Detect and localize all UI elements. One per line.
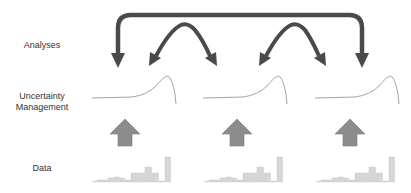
histogram-bar xyxy=(264,173,271,182)
arc-feedback-arrow-2 xyxy=(259,24,326,66)
histogram-bar xyxy=(317,181,321,182)
histogram-bar xyxy=(145,167,152,182)
histogram-bar xyxy=(344,178,349,182)
histogram-bar xyxy=(389,157,395,182)
data-histogram-1 xyxy=(93,157,171,182)
histogram-bar xyxy=(159,181,165,182)
histogram-bar xyxy=(332,178,338,182)
histogram-bar xyxy=(220,178,226,182)
up-arrow-1 xyxy=(110,119,140,146)
histogram-bar xyxy=(243,173,250,182)
histogram-bar xyxy=(152,173,159,182)
histogram-bar xyxy=(93,181,97,182)
histogram-bar xyxy=(165,157,171,182)
histogram-bar xyxy=(271,181,277,182)
histogram-bar xyxy=(209,180,214,182)
histogram-bar xyxy=(232,178,237,182)
histogram-bar xyxy=(138,173,145,182)
histogram-bar xyxy=(226,177,232,182)
histogram-bar xyxy=(102,180,108,182)
histogram-bar xyxy=(114,177,120,182)
arrowhead-icon xyxy=(111,53,125,68)
histogram-bar xyxy=(214,180,220,182)
histogram-bar xyxy=(349,180,355,182)
histogram-bar xyxy=(97,180,102,182)
arrowhead-icon xyxy=(355,53,369,68)
histogram-bar xyxy=(338,177,344,182)
uncertainty-curve-2 xyxy=(203,76,287,104)
workflow-diagram xyxy=(0,0,411,193)
uncertainty-curve-1 xyxy=(92,76,176,104)
histogram-bar xyxy=(326,180,332,182)
data-histogram-2 xyxy=(205,157,283,182)
histogram-bar xyxy=(321,180,326,182)
histogram-bar xyxy=(257,167,264,182)
histogram-bar xyxy=(131,173,138,182)
uncertainty-curve-3 xyxy=(315,76,399,104)
up-arrow-2 xyxy=(222,119,252,146)
histogram-bar xyxy=(205,181,209,182)
histogram-bar xyxy=(383,181,389,182)
arc-feedback-arrow-1 xyxy=(149,24,217,66)
histogram-bar xyxy=(120,178,125,182)
histogram-bar xyxy=(376,173,383,182)
data-histogram-3 xyxy=(317,157,395,182)
histogram-bar xyxy=(108,178,114,182)
histogram-bar xyxy=(355,173,362,182)
histogram-bar xyxy=(250,173,257,182)
histogram-bar xyxy=(237,180,243,182)
histogram-bar xyxy=(277,157,283,182)
histogram-bar xyxy=(362,173,369,182)
histogram-bar xyxy=(369,167,376,182)
histogram-bar xyxy=(125,180,131,182)
up-arrow-3 xyxy=(335,119,365,146)
